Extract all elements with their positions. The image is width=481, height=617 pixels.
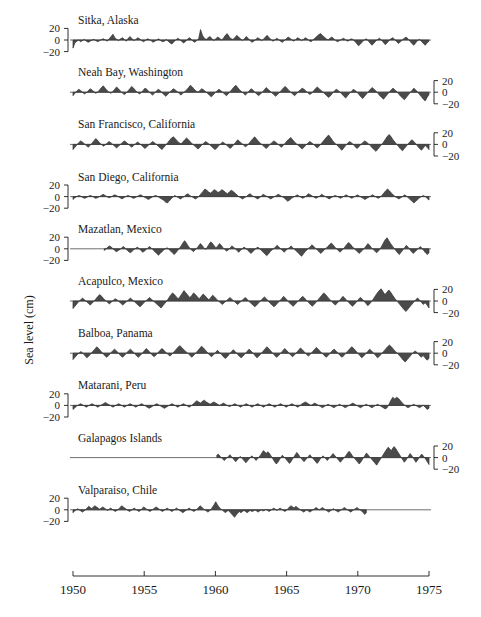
y-tick-label: −20 bbox=[43, 411, 61, 423]
x-tick-label: 1970 bbox=[345, 582, 371, 597]
panel-title: Acapulco, Mexico bbox=[78, 275, 163, 288]
y-axis-label: Sea level (cm) bbox=[22, 295, 36, 364]
y-tick-label: −20 bbox=[43, 202, 61, 214]
y-tick-label: 0 bbox=[55, 243, 61, 255]
panel-title: Neah Bay, Washington bbox=[78, 66, 183, 79]
y-tick-label: −20 bbox=[442, 98, 460, 110]
y-tick-label: 20 bbox=[442, 283, 454, 295]
y-tick-label: −20 bbox=[442, 359, 460, 371]
y-tick-label: 0 bbox=[442, 452, 448, 464]
x-tick-label: 1960 bbox=[202, 582, 228, 597]
panel-title: Sitka, Alaska bbox=[78, 14, 139, 27]
y-tick-label: 0 bbox=[442, 138, 448, 150]
y-tick-label: 0 bbox=[55, 191, 61, 203]
panel-title: Galapagos Islands bbox=[78, 432, 163, 445]
panel-title: Valparaiso, Chile bbox=[78, 484, 157, 497]
y-tick-label: 20 bbox=[49, 492, 61, 504]
sea-level-figure: Sea level (cm) −20020Sitka, Alaska−20020… bbox=[0, 0, 481, 617]
y-axis-label-text: Sea level (cm) bbox=[22, 295, 36, 364]
panel-title: Balboa, Panama bbox=[78, 327, 153, 340]
multi-panel-timeseries-chart: Sea level (cm) −20020Sitka, Alaska−20020… bbox=[0, 0, 481, 617]
panel-title: San Francisco, California bbox=[78, 118, 195, 131]
y-tick-label: 20 bbox=[442, 75, 454, 87]
x-tick-label: 1965 bbox=[274, 582, 300, 597]
y-tick-label: 20 bbox=[442, 336, 454, 348]
panel-title: San Diego, California bbox=[78, 171, 179, 184]
y-tick-label: 20 bbox=[49, 22, 61, 34]
y-tick-label: 0 bbox=[55, 34, 61, 46]
y-tick-label: 20 bbox=[49, 179, 61, 191]
panel-title: Matarani, Peru bbox=[78, 379, 147, 392]
x-tick-label: 1975 bbox=[416, 582, 442, 597]
y-tick-label: 20 bbox=[442, 127, 454, 139]
y-tick-label: 20 bbox=[49, 231, 61, 243]
y-tick-label: −20 bbox=[43, 515, 61, 527]
x-tick-label: 1955 bbox=[131, 582, 157, 597]
y-tick-label: 20 bbox=[442, 440, 454, 452]
y-tick-label: 0 bbox=[55, 504, 61, 516]
y-tick-label: −20 bbox=[442, 463, 460, 475]
x-tick-label: 1950 bbox=[60, 582, 86, 597]
y-tick-label: −20 bbox=[442, 150, 460, 162]
y-tick-label: −20 bbox=[43, 46, 61, 58]
y-tick-label: 0 bbox=[442, 347, 448, 359]
y-tick-label: 20 bbox=[49, 388, 61, 400]
y-tick-label: 0 bbox=[442, 295, 448, 307]
panel-title: Mazatlan, Mexico bbox=[78, 223, 162, 236]
y-tick-label: −20 bbox=[442, 307, 460, 319]
y-tick-label: 0 bbox=[55, 399, 61, 411]
y-tick-label: 0 bbox=[442, 86, 448, 98]
y-tick-label: −20 bbox=[43, 254, 61, 266]
